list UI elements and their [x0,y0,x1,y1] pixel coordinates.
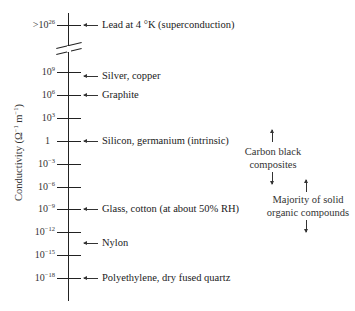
left-arrow-icon [84,76,98,77]
up-arrow-icon [306,180,307,192]
tick-label: 10−18 [35,272,55,284]
y-axis-label: Conductivity (Ω−1 m−1) [13,83,24,223]
down-arrow-icon [306,220,307,232]
material-annotation-lead: Lead at 4 °K (superconduction) [84,19,235,31]
material-label: Silicon, germanium (intrinsic) [102,135,229,147]
left-arrow-icon [84,95,98,96]
material-label: Silver, copper [102,70,160,82]
conductivity-axis-line [68,13,69,301]
material-annotation-silver: Silver, copper [84,70,160,82]
tick-mark [57,164,81,165]
tick-label: 109 [42,66,55,78]
axis-break-gap [67,46,71,52]
material-annotation-nylon: Nylon [84,237,128,249]
tick-mark [57,187,81,188]
material-label: Polyethylene, dry fused quartz [102,272,230,284]
tick-mark [57,255,81,256]
tick-mark [57,232,81,233]
tick-label: 10−6 [38,181,55,193]
material-label: Graphite [102,89,139,101]
left-arrow-icon [84,25,98,26]
material-label: Nylon [102,237,128,249]
up-arrow-icon [272,130,273,142]
tick-mark [57,95,81,96]
range-label-line: composites [236,158,310,171]
tick-mark [57,141,81,142]
material-annotation-polyethylene: Polyethylene, dry fused quartz [84,272,230,284]
range-label-line: organic compounds [262,206,354,219]
tick-label: >1026 [33,19,55,31]
tick-mark [57,118,81,119]
left-arrow-icon [84,278,98,279]
tick-mark [57,25,81,26]
tick-mark [57,209,81,210]
material-annotation-glass: Glass, cotton (at about 50% RH) [84,203,239,215]
range-label-line: Majority of solid [262,193,354,206]
tick-label: 10−3 [38,158,55,170]
range-organic-compounds: Majority of solid organic compounds [262,193,354,219]
tick-label: 10−15 [35,249,55,261]
tick-label: 10−9 [38,203,55,215]
tick-label: 10−12 [35,226,55,238]
material-label: Glass, cotton (at about 50% RH) [102,203,239,215]
range-carbon-black: Carbon black composites [236,145,310,171]
material-annotation-graphite: Graphite [84,89,139,101]
tick-mark [57,278,81,279]
left-arrow-icon [84,243,98,244]
range-label-line: Carbon black [236,145,310,158]
material-label: Lead at 4 °K (superconduction) [102,19,235,31]
tick-mark [57,72,81,73]
tick-label: 103 [42,112,55,124]
down-arrow-icon [272,172,273,184]
left-arrow-icon [84,141,98,142]
left-arrow-icon [84,209,98,210]
tick-label: 1 [45,135,50,147]
tick-label: 106 [42,89,55,101]
material-annotation-silicon: Silicon, germanium (intrinsic) [84,135,229,147]
